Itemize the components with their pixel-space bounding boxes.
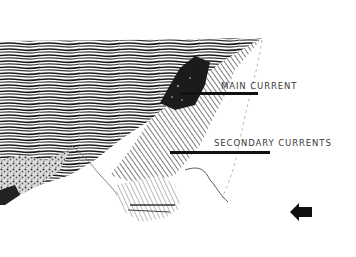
right-bank-outline [185,168,228,202]
main-current-label: MAIN CURRENT [221,81,297,91]
river-current-illustration [0,0,356,257]
secondary-currents-label: SECONDARY CURRENTS [214,138,332,148]
secondary-current-zone [115,175,180,222]
main-current-leader [180,92,258,95]
secondary-currents-leader [170,151,270,154]
left-arrow-icon [290,203,312,221]
